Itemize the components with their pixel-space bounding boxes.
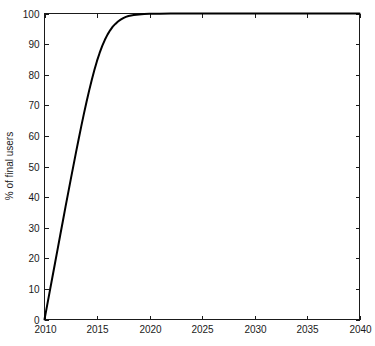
y-tick-label: 0 (34, 315, 40, 326)
y-axis-tick-labels: 0102030405060708090100 (23, 9, 40, 326)
y-tick-label: 60 (28, 131, 40, 142)
y-tick-label: 40 (28, 192, 40, 203)
y-tick-label: 10 (28, 284, 40, 295)
x-tick-label: 2035 (296, 324, 319, 335)
x-axis-tick-labels: 2010201520202025203020352040 (34, 324, 372, 335)
x-tick-label: 2040 (349, 324, 372, 335)
y-tick-label: 30 (28, 223, 40, 234)
y-axis-title: % of final users (4, 132, 15, 200)
x-tick-label: 2025 (191, 324, 214, 335)
y-tick-label: 80 (28, 70, 40, 81)
plot-area-background (44, 13, 360, 320)
figure-container: 2010201520202025203020352040 01020304050… (0, 0, 375, 346)
x-tick-label: 2020 (139, 324, 162, 335)
y-tick-label: 20 (28, 253, 40, 264)
y-tick-label: 100 (23, 9, 40, 20)
y-tick-label: 90 (28, 39, 40, 50)
x-tick-label: 2015 (86, 324, 109, 335)
y-tick-label: 50 (28, 162, 40, 173)
y-tick-label: 70 (28, 100, 40, 111)
x-tick-label: 2030 (244, 324, 267, 335)
adoption-curve-chart: 2010201520202025203020352040 01020304050… (0, 0, 375, 346)
